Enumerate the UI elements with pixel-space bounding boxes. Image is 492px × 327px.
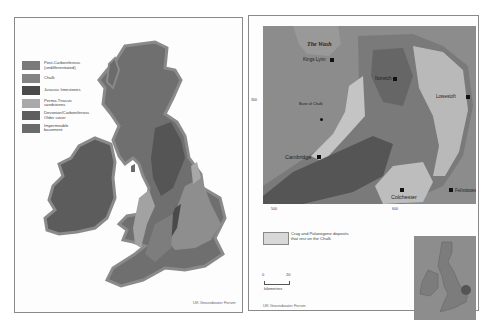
town-marker xyxy=(466,95,470,99)
base-of-chalk-label: Base of Chalk xyxy=(299,102,323,106)
place-norwich: Norwich xyxy=(375,76,392,81)
base-of-chalk-point xyxy=(320,118,323,121)
x-axis-tick: 600 xyxy=(392,207,398,211)
scale-line xyxy=(264,281,290,285)
contour-layers xyxy=(263,26,476,204)
east-anglia-contour-map: The Wash Kings Lynn Norwich Lowestoft Ba… xyxy=(263,26,476,204)
map-credit: UK Groundwater Forum xyxy=(263,303,305,308)
ireland-landmass xyxy=(45,138,115,234)
place-colchester: Colchester xyxy=(391,194,417,200)
crag-legend-label: Crag and Palaeogene deposits that rest o… xyxy=(291,231,349,241)
place-felixstowe: Felixstowe xyxy=(455,188,476,193)
x-axis-tick: 500 xyxy=(271,207,277,211)
scale-unit: kilometres xyxy=(264,286,282,291)
scale-start: 0 xyxy=(262,272,264,277)
scale-end: 20 xyxy=(286,272,290,277)
scale-bar: 0 20 kilometres xyxy=(262,272,292,292)
place-kings-lynn: Kings Lynn xyxy=(303,57,326,62)
y-axis-tick: 300 xyxy=(251,98,257,102)
town-marker xyxy=(330,58,334,62)
place-cambridge: Cambridge xyxy=(285,154,311,160)
place-lowestoft: Lowestoft xyxy=(436,94,456,99)
town-marker xyxy=(400,188,404,192)
inset-ireland xyxy=(420,270,438,296)
geology-map-panel: Post-Carboniferous (undifferentiated) Ch… xyxy=(14,17,243,313)
town-marker xyxy=(317,155,321,159)
crag-legend-swatch xyxy=(263,232,289,245)
town-marker xyxy=(449,188,453,192)
british-isles-geology-map xyxy=(15,18,244,314)
the-wash-label: The Wash xyxy=(307,41,332,47)
location-inset-map xyxy=(414,236,476,320)
inset-great-britain xyxy=(438,242,468,312)
map-credit: UK Groundwater Forum xyxy=(193,300,235,305)
isle-of-man xyxy=(131,164,135,172)
regional-chalk-map-panel: The Wash Kings Lynn Norwich Lowestoft Ba… xyxy=(248,15,479,311)
inset-british-isles xyxy=(414,236,476,320)
town-marker xyxy=(393,77,397,81)
inset-location-marker xyxy=(461,285,471,295)
